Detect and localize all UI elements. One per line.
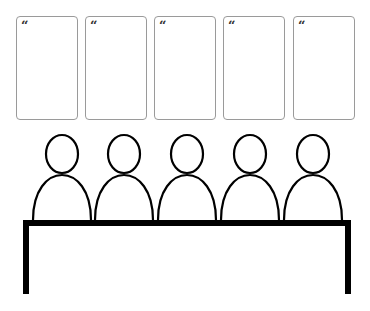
table-icon xyxy=(23,220,351,294)
person-icon xyxy=(158,135,216,220)
panel-illustration xyxy=(0,0,370,311)
person-icon xyxy=(33,135,91,220)
person-icon xyxy=(95,135,153,220)
people-group xyxy=(33,135,342,220)
person-icon xyxy=(284,135,342,220)
person-icon xyxy=(221,135,279,220)
